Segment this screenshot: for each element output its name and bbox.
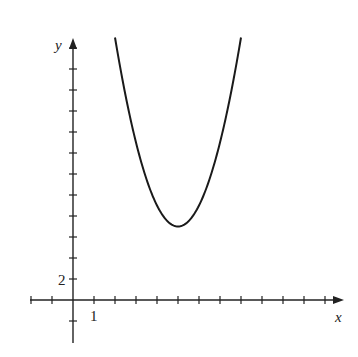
y-axis xyxy=(69,38,77,343)
y-tick-label-2: 2 xyxy=(58,272,66,288)
y-axis-arrow-icon xyxy=(69,38,77,49)
x-axis-label: x xyxy=(334,309,342,325)
x-axis-arrow-icon xyxy=(333,296,344,304)
parabola-curve xyxy=(115,38,241,227)
x-tick-label-1: 1 xyxy=(90,308,98,324)
parabola-graph: x y 1 2 xyxy=(0,0,358,357)
y-axis-label: y xyxy=(53,37,62,53)
x-axis xyxy=(30,296,344,304)
